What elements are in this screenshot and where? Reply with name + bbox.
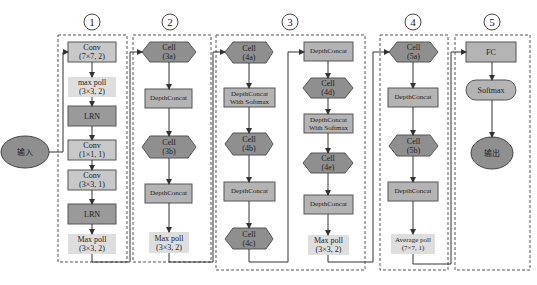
label-cell-4b: Cell (4b): [225, 133, 273, 155]
label-cell-5b: Cell (5b): [389, 135, 438, 156]
label-cell-4c: Cell (4c): [225, 228, 273, 249]
label-maxpool-1: max poll (3×3, 2): [68, 77, 116, 97]
label-conv-7x7: Conv (7×7, 2): [68, 42, 116, 62]
label-depthconcat-softmax-4a: DepthConcat With Softmax: [224, 88, 275, 107]
label-depthconcat-3b: DepthConcat: [145, 184, 192, 203]
section-3-number: 3: [282, 14, 298, 30]
section-5-number: 5: [484, 14, 500, 30]
label-cell-3b: Cell (3b): [142, 136, 196, 158]
output-label: 输出: [471, 145, 513, 161]
label-cell-4d: Cell (4d): [303, 78, 353, 98]
label-conv-1x1: Conv (1×1, 1): [68, 140, 116, 160]
label-cell-4e: Cell (4e): [303, 153, 353, 173]
label-cell-4a: Cell (4a): [225, 42, 273, 63]
label-depthconcat-5a: DepthConcat: [388, 88, 438, 107]
input-label: 输入: [1, 144, 49, 160]
label-depthconcat-5b: DepthConcat: [388, 182, 438, 201]
label-maxpool-2: Max poll (3×3, 2): [68, 234, 116, 254]
section-1-number: 1: [84, 14, 100, 30]
label-depthconcat-4b: DepthConcat: [224, 182, 275, 201]
section-4-number: 4: [405, 14, 421, 30]
label-lrn-2: LRN: [68, 204, 116, 224]
label-cell-3a: Cell (3a): [142, 42, 196, 62]
label-softmax: Softmax: [466, 80, 516, 100]
label-fc: FC: [466, 42, 516, 62]
label-depthconcat-3a: DepthConcat: [145, 89, 192, 108]
label-maxpool-3: Max poll (3×3, 2): [149, 232, 189, 253]
label-maxpool-4: Max poll (3×3, 2): [308, 235, 349, 255]
section-2-number: 2: [162, 14, 178, 30]
label-depthconcat-4c: DepthConcat: [304, 42, 353, 61]
label-cell-5a: Cell (5a): [389, 42, 438, 62]
label-conv-3x3: Conv (3×3, 1): [68, 170, 116, 190]
label-depthconcat-softmax-4d: DepthConcat With Softmax: [304, 114, 353, 133]
label-average-pool: Average poll (7×7, 1): [391, 234, 435, 254]
label-lrn-1: LRN: [68, 106, 116, 126]
label-depthconcat-4e: DepthConcat: [304, 195, 353, 214]
